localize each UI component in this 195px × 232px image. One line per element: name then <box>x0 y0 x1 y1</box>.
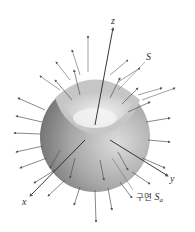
z-axis-label: z <box>111 15 115 26</box>
surface-S-label: S <box>146 51 151 62</box>
y-axis-label: y <box>170 173 174 184</box>
S-leader <box>118 62 145 90</box>
x-axis-label: x <box>22 196 26 207</box>
vector-field-diagram: z S y x 구면 Sa <box>0 0 195 232</box>
sphere-prefix: 구면 <box>136 192 152 202</box>
sphere-flux-illustration <box>0 0 195 232</box>
sphere-sub: a <box>160 196 164 204</box>
sphere-Sa-label: 구면 Sa <box>136 190 163 204</box>
